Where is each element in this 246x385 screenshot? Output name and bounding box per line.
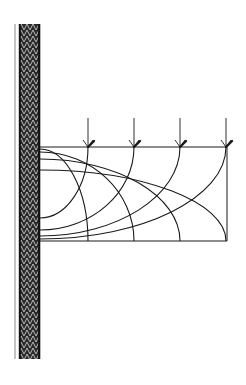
load-arrow-4	[221, 118, 232, 147]
wall-support	[15, 24, 40, 359]
stress-trajectory-diagram	[0, 0, 246, 385]
wall-hatched-band	[19, 24, 40, 359]
load-arrows	[83, 118, 232, 147]
arrow-bold-tick	[88, 141, 94, 147]
arrow-bold-tick	[226, 141, 232, 147]
load-arrow-1	[83, 118, 94, 147]
descending-curve-3	[40, 159, 180, 241]
ascending-curve-1	[40, 147, 88, 218]
load-arrow-3	[175, 118, 186, 147]
arrow-bold-tick	[180, 141, 186, 147]
arrow-bold-tick	[134, 141, 140, 147]
load-arrow-2	[129, 118, 140, 147]
